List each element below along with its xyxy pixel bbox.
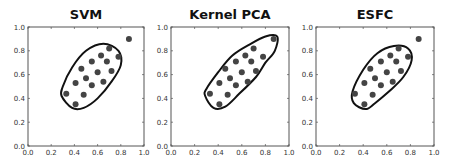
data-point — [260, 54, 266, 60]
panel-esfc: 0.00.20.40.60.81.00.00.20.40.60.81.0ESFC — [302, 7, 440, 157]
x-tick-label: 0.6 — [92, 149, 104, 157]
data-point — [370, 92, 376, 98]
data-point — [78, 66, 84, 72]
data-point — [390, 79, 396, 85]
y-tick-label: 0.2 — [157, 119, 168, 127]
data-point — [227, 75, 233, 81]
x-tick-label: 1.0 — [138, 149, 149, 157]
x-tick-label: 1.0 — [428, 149, 439, 157]
data-point — [248, 59, 254, 65]
data-point — [378, 82, 384, 88]
y-tick-label: 0.6 — [14, 71, 26, 79]
x-tick-label: 0.4 — [213, 149, 225, 157]
panel-title: Kernel PCA — [189, 7, 270, 22]
panel-title: SVM — [70, 7, 102, 22]
data-point — [222, 66, 228, 72]
data-point — [95, 69, 101, 75]
data-point — [405, 54, 411, 60]
x-tick-label: 0.6 — [381, 149, 393, 157]
data-point — [126, 36, 132, 42]
y-tick-label: 0.2 — [14, 119, 25, 127]
data-point — [100, 79, 106, 85]
data-point — [253, 68, 259, 74]
data-point — [73, 80, 79, 86]
x-tick-label: 0.2 — [334, 149, 345, 157]
data-point — [216, 80, 222, 86]
x-tick-label: 0.2 — [189, 149, 200, 157]
data-point — [207, 91, 213, 97]
axes-frame — [28, 27, 144, 146]
y-tick-label: 0.8 — [302, 47, 313, 55]
data-point — [352, 91, 358, 97]
x-tick-label: 0.4 — [69, 149, 81, 157]
data-point — [239, 69, 245, 75]
data-point — [384, 69, 390, 75]
y-tick-label: 0.0 — [302, 143, 313, 151]
y-tick-label: 0.0 — [157, 143, 168, 151]
data-point — [372, 75, 378, 81]
data-point — [378, 59, 384, 65]
data-point — [104, 59, 110, 65]
x-tick-label: 0.4 — [358, 149, 370, 157]
data-point — [98, 53, 104, 59]
x-tick-label: 0.8 — [260, 149, 271, 157]
x-tick-label: 0.6 — [236, 149, 248, 157]
axes-frame — [316, 27, 434, 146]
data-point — [361, 80, 367, 86]
x-tick-label: 1.0 — [283, 149, 294, 157]
y-tick-label: 0.0 — [14, 143, 25, 151]
data-point — [398, 68, 404, 74]
data-point — [225, 92, 231, 98]
y-tick-label: 0.8 — [14, 47, 25, 55]
y-tick-label: 0.4 — [157, 95, 169, 103]
y-tick-label: 0.8 — [157, 47, 168, 55]
y-tick-label: 0.6 — [302, 71, 314, 79]
data-point — [63, 91, 69, 97]
data-point — [81, 92, 87, 98]
data-point — [89, 82, 95, 88]
panel-kernel-pca: 0.00.20.40.60.81.00.00.20.40.60.81.0Kern… — [157, 7, 295, 157]
data-point — [216, 101, 222, 107]
data-point — [233, 82, 239, 88]
data-point — [109, 68, 115, 74]
y-tick-label: 1.0 — [14, 24, 25, 32]
data-point — [106, 45, 112, 51]
x-tick-label: 0.8 — [115, 149, 126, 157]
y-tick-label: 0.4 — [14, 95, 26, 103]
x-tick-label: 0.8 — [405, 149, 416, 157]
data-point — [416, 36, 422, 42]
x-tick-label: 0.2 — [46, 149, 57, 157]
y-tick-label: 1.0 — [157, 24, 168, 32]
data-point — [83, 75, 89, 81]
axes-frame — [171, 27, 289, 146]
y-tick-label: 0.4 — [302, 95, 314, 103]
panel-svm: 0.00.20.40.60.81.00.00.20.40.60.81.0SVM — [14, 7, 150, 157]
data-point — [396, 45, 402, 51]
data-point — [115, 54, 121, 60]
data-point — [89, 59, 95, 65]
data-point — [393, 59, 399, 65]
y-tick-label: 1.0 — [302, 24, 313, 32]
data-point — [233, 59, 239, 65]
data-point — [367, 66, 373, 72]
y-tick-label: 0.6 — [157, 71, 169, 79]
chart-figure: 0.00.20.40.60.81.00.00.20.40.60.81.0SVM … — [0, 0, 452, 165]
panel-title: ESFC — [357, 7, 394, 22]
data-point — [242, 53, 248, 59]
data-point — [245, 79, 251, 85]
data-point — [361, 101, 367, 107]
data-point — [251, 45, 257, 51]
y-tick-label: 0.2 — [302, 119, 313, 127]
data-point — [73, 101, 79, 107]
data-point — [387, 53, 393, 59]
data-point — [271, 36, 277, 42]
